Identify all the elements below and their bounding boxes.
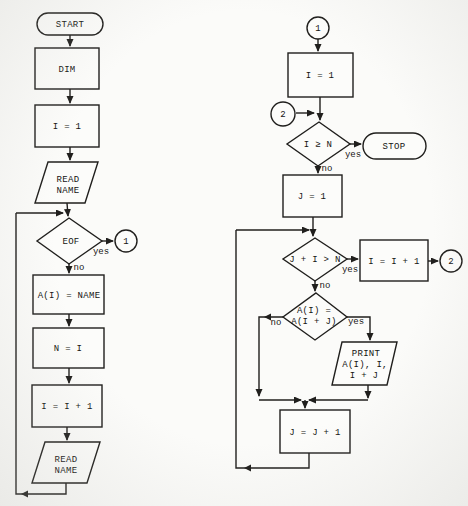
decision-compare-names-line1: A(I) = (297, 306, 331, 316)
process-n-eq-i: N = I (33, 328, 104, 368)
left-flowchart: START DIM I = 1 READ NAME EOF yes no 1 A… (16, 13, 137, 498)
process-assign-name-label: A(I) = NAME (38, 291, 101, 301)
connector-circle-1-left-label: 1 (123, 237, 129, 247)
loop-arrowhead-right (244, 465, 251, 472)
connector-circle-1-left: 1 (115, 230, 137, 252)
decision-eof: EOF (37, 218, 102, 264)
cond3-no-branch-line (259, 317, 283, 396)
connector-circle-1-right: 1 (307, 17, 329, 39)
decision-j-plus-i-gt-n-label: J + I > N (289, 255, 340, 265)
io-read-name-2-line2: NAME (55, 466, 78, 476)
process-i-eq-1-right-label: I = 1 (306, 71, 335, 81)
process-j-increment-label: J = J + 1 (289, 428, 340, 438)
connector-circle-1-right-label: 1 (315, 24, 321, 34)
process-assign-name: A(I) = NAME (33, 275, 104, 314)
io-read-name-1: READ NAME (35, 162, 98, 203)
terminal-stop: STOP (363, 133, 426, 159)
branch-label-cond3-yes: yes (348, 317, 364, 327)
branch-label-cond2-no: no (320, 281, 331, 291)
process-dim-label: DIM (58, 65, 75, 75)
process-n-eq-i-label: N = I (54, 344, 83, 354)
branch-label-cond2-yes: yes (342, 265, 358, 275)
process-i-eq-1-left-label: I = 1 (53, 122, 82, 132)
decision-compare-names-line2: A(I + J) (291, 317, 337, 327)
arrow-read1-to-eof (67, 203, 68, 216)
connector-circle-2-exit: 2 (440, 250, 462, 272)
decision-i-ge-n: I ≥ N (287, 122, 350, 166)
io-read-name-1-line2: NAME (57, 186, 80, 196)
process-j-eq-1-label: J = 1 (298, 192, 327, 202)
io-print-result-line2: A(I), I, (342, 360, 388, 370)
process-j-increment: J = J + 1 (280, 410, 350, 453)
process-i-increment-right-label: I = I + 1 (368, 257, 419, 267)
process-i-eq-1-left: I = 1 (35, 105, 99, 147)
branch-label-cond3-no: no (271, 318, 282, 328)
decision-eof-label: EOF (62, 237, 79, 247)
connector-circle-2-exit-label: 2 (448, 257, 454, 267)
io-read-name-2-line1: READ (55, 455, 78, 465)
branch-label-eof-yes: yes (93, 247, 109, 257)
decision-j-plus-i-gt-n: J + I > N (283, 238, 347, 281)
connector-circle-2-entry: 2 (271, 102, 295, 126)
right-flowchart: 1 I = 1 2 I ≥ N yes no STOP J = 1 J + I … (236, 17, 462, 472)
process-j-eq-1: J = 1 (283, 175, 342, 217)
io-print-result: PRINT A(I), I, I + J (332, 342, 397, 385)
process-i-increment-left: I = I + 1 (32, 385, 102, 427)
flowchart-canvas: START DIM I = 1 READ NAME EOF yes no 1 A… (0, 0, 468, 506)
branch-label-cond1-no: no (322, 164, 333, 174)
branch-label-cond1-yes: yes (345, 150, 361, 160)
process-i-eq-1-right: I = 1 (288, 53, 353, 97)
terminal-start-label: START (56, 20, 85, 30)
process-i-increment-left-label: I = I + 1 (41, 402, 92, 412)
branch-label-eof-no: no (74, 263, 85, 273)
io-read-name-1-line1: READ (57, 175, 80, 185)
decision-i-ge-n-label: I ≥ N (304, 140, 333, 150)
process-i-increment-right: I = I + 1 (360, 240, 428, 281)
decision-compare-names: A(I) = A(I + J) (283, 293, 347, 340)
connector-circle-2-entry-label: 2 (280, 110, 286, 120)
process-dim: DIM (35, 48, 99, 89)
io-read-name-2: READ NAME (32, 442, 100, 483)
io-print-result-line1: PRINT (352, 349, 381, 359)
loop-arrowhead-left (21, 491, 28, 498)
terminal-start: START (37, 13, 103, 35)
io-print-result-line3: I + J (350, 371, 379, 381)
terminal-stop-label: STOP (383, 142, 406, 152)
